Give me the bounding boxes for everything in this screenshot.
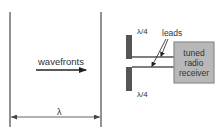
wavefronts-label: wavefronts <box>37 56 84 67</box>
lower-antenna-element <box>126 67 132 91</box>
wavefront-panel: wavefronts λ <box>10 12 101 127</box>
upper-antenna-element <box>126 35 132 59</box>
receiver-label-line3: receiver <box>179 68 209 78</box>
upper-element-label: λ/4 <box>137 27 148 36</box>
leads-pointer-lower-icon <box>152 39 166 66</box>
lower-element-label: λ/4 <box>137 90 148 99</box>
leads-label: leads <box>162 28 182 38</box>
receiver-label-line1: tuned <box>183 48 205 58</box>
antenna-panel: λ/4 λ/4 leads tuned radio receiver <box>126 27 214 99</box>
receiver-label-line2: radio <box>185 58 204 68</box>
wavelength-label: λ <box>57 107 62 117</box>
diagram-canvas: wavefronts λ λ/4 λ/4 leads tuned radio r… <box>0 0 223 135</box>
